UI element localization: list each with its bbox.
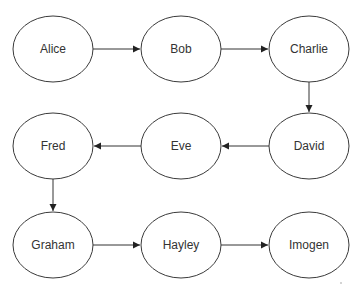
node-alice: Alice: [13, 16, 93, 82]
flowchart-diagram: AliceBobCharlieDavidEveFredGrahamHayleyI…: [0, 0, 361, 294]
node-eve: Eve: [141, 113, 221, 179]
node-label: Imogen: [289, 238, 329, 252]
node-label: David: [294, 139, 325, 153]
node-fred: Fred: [13, 113, 93, 179]
node-david: David: [269, 113, 349, 179]
node-label: Alice: [40, 42, 66, 56]
node-label: Fred: [41, 139, 66, 153]
stray-dot: [340, 282, 341, 283]
node-bob: Bob: [141, 16, 221, 82]
node-hayley: Hayley: [141, 212, 221, 278]
node-label: Hayley: [163, 238, 200, 252]
node-label: Eve: [171, 139, 192, 153]
node-charlie: Charlie: [269, 16, 349, 82]
node-label: Bob: [170, 42, 192, 56]
node-graham: Graham: [13, 212, 93, 278]
node-imogen: Imogen: [269, 212, 349, 278]
node-label: Charlie: [290, 42, 328, 56]
node-label: Graham: [31, 238, 74, 252]
